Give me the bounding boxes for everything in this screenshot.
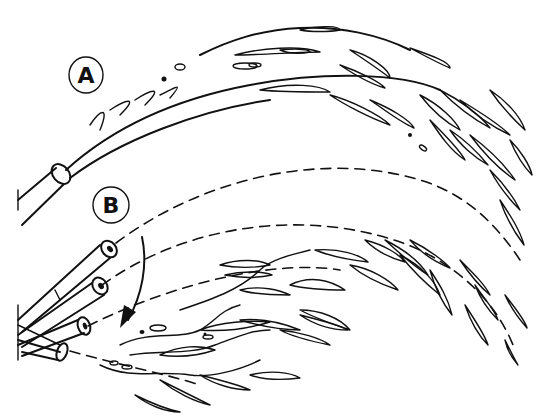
spray-b <box>100 240 527 412</box>
hose-a-icon <box>18 76 440 225</box>
label-b-badge: B <box>93 187 129 223</box>
hose-b-nozzles-icon <box>18 238 120 363</box>
label-b-text: B <box>103 193 120 218</box>
spray-a <box>90 27 532 245</box>
illustration-canvas: A B <box>0 0 542 417</box>
label-a-text: A <box>77 63 94 88</box>
label-a-badge: A <box>69 57 103 93</box>
rotation-arrow-icon <box>120 237 144 328</box>
dashed-trajectories <box>70 168 520 385</box>
hose-spray-illustration: A B <box>0 0 542 417</box>
